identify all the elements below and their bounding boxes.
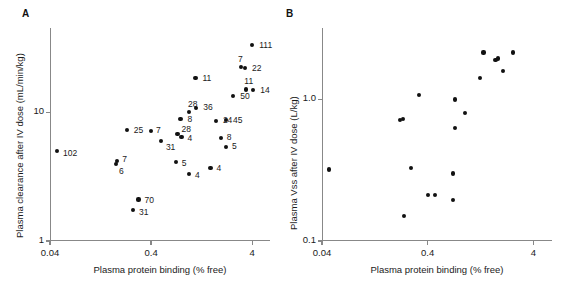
panel-a-y-tick xyxy=(46,112,50,113)
data-point-label: 8 xyxy=(227,133,232,142)
panel-a-x-tick xyxy=(150,241,151,245)
data-point-label: 25 xyxy=(134,126,143,135)
panel-a-y-axis-title: Plasma clearance after IV dose (mL/min/k… xyxy=(14,53,25,238)
data-point-label: 36 xyxy=(203,103,212,112)
data-point xyxy=(453,97,457,101)
data-point xyxy=(193,76,197,80)
panel-b-letter: B xyxy=(286,8,293,19)
data-point-label: 31 xyxy=(166,143,175,152)
data-point xyxy=(125,128,129,132)
panel-a-letter: A xyxy=(22,8,29,19)
data-point xyxy=(417,93,421,97)
data-point-label: 5 xyxy=(232,142,237,151)
panel-a-x-tick xyxy=(252,241,253,245)
data-point xyxy=(478,76,482,80)
panel-a-x-axis-title: Plasma protein binding (% free) xyxy=(50,264,270,275)
panel-b: B Plasma Vss after IV dose (L/kg) Plasma… xyxy=(282,0,564,285)
panel-a-x-tick-label: 0.04 xyxy=(25,247,75,258)
data-point-label: 4 xyxy=(217,164,222,173)
data-point xyxy=(208,166,212,170)
data-point-label: 8 xyxy=(187,115,192,124)
data-point-label: 102 xyxy=(63,149,77,158)
panel-b-x-tick-label: 4 xyxy=(508,247,558,258)
data-point-label: 4 xyxy=(195,171,200,180)
data-point-label: 14 xyxy=(260,86,269,95)
data-point-label: 70 xyxy=(144,196,153,205)
data-point xyxy=(178,117,182,121)
data-point xyxy=(496,56,500,60)
panel-b-x-tick-label: 0.4 xyxy=(403,247,453,258)
panel-b-y-tick-label: 1.0 xyxy=(276,92,316,103)
panel-b-plot-area xyxy=(322,28,552,241)
panel-a-x-tick xyxy=(49,241,50,245)
data-point-label: 6 xyxy=(119,167,124,176)
panel-b-x-tick xyxy=(533,241,534,245)
panel-b-x-tick xyxy=(321,241,322,245)
data-point-label: 111 xyxy=(259,41,272,50)
panel-a-x-tick-label: 0.4 xyxy=(126,247,176,258)
panel-b-y-axis-title: Plasma Vss after IV dose (L/kg) xyxy=(288,96,299,230)
data-point-label: 22 xyxy=(252,64,261,73)
data-point-label: 11 xyxy=(203,74,212,83)
data-point xyxy=(136,197,140,201)
data-point-label: 4 xyxy=(188,134,193,143)
data-point-label: 31 xyxy=(139,208,148,217)
data-point-label: 45 xyxy=(233,116,242,125)
panel-b-x-axis-title: Plasma protein binding (% free) xyxy=(322,264,552,275)
data-point-label: 7 xyxy=(238,55,243,64)
data-point xyxy=(131,208,135,212)
data-point xyxy=(453,126,457,130)
panel-a-y-tick-label: 1 xyxy=(4,234,44,245)
data-point xyxy=(174,160,178,164)
data-point xyxy=(179,135,183,139)
panel-a-y-tick-label: 10 xyxy=(4,105,44,116)
panel-b-y-tick-label: 0.1 xyxy=(276,234,316,245)
data-point xyxy=(159,139,163,143)
panel-b-x-tick xyxy=(427,241,428,245)
data-point-label: 7 xyxy=(156,126,161,135)
data-point-label: 50 xyxy=(240,92,249,101)
panel-a: A Plasma clearance after IV dose (mL/min… xyxy=(0,0,282,285)
data-point-label: 28 xyxy=(182,125,191,134)
data-point xyxy=(481,50,485,54)
data-point xyxy=(224,145,228,149)
data-point-label: 5 xyxy=(182,159,187,168)
data-point-label: 7 xyxy=(122,155,127,164)
data-point-label: 11 xyxy=(244,77,253,86)
panel-b-x-tick-label: 0.04 xyxy=(297,247,347,258)
data-point xyxy=(501,69,505,73)
figure-root: A Plasma clearance after IV dose (mL/min… xyxy=(0,0,564,285)
data-point xyxy=(219,136,223,140)
panel-a-x-tick-label: 4 xyxy=(227,247,277,258)
data-point xyxy=(511,50,515,54)
panel-b-y-tick xyxy=(318,99,322,100)
data-point xyxy=(224,118,228,122)
